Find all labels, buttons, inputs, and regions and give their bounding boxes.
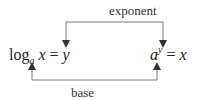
- exp-result: x: [179, 46, 186, 63]
- log-argument: x: [38, 46, 45, 63]
- base-label: base: [71, 86, 94, 99]
- log-result: y: [63, 46, 70, 63]
- exponential-equation: ay = x: [150, 47, 187, 63]
- exp-exponent: y: [158, 44, 162, 55]
- equals-sign: =: [50, 46, 59, 63]
- base-connector: [32, 64, 157, 80]
- equals-sign: =: [166, 46, 175, 63]
- exponent-connector: [66, 22, 163, 46]
- log-exponent-diagram: exponent base loga x = y ay = x: [0, 0, 202, 100]
- exponent-label: exponent: [109, 4, 157, 17]
- log-base: a: [29, 55, 34, 66]
- log-equation: loga x = y: [9, 47, 70, 63]
- exp-base: a: [150, 46, 158, 63]
- arrow-up-icon: [153, 62, 161, 70]
- log-fn: log: [9, 46, 29, 63]
